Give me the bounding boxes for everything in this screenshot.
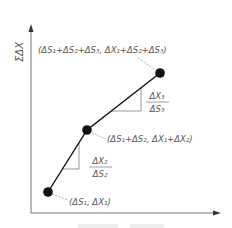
diagram-svg: ΣΔX (ΔS₁, ΔX₁) (ΔS₁+ΔS₂, ΔX₁+ΔX₂) (ΔS₁+Δ… [0, 0, 232, 228]
data-point-3 [155, 68, 165, 78]
y-axis-label: ΣΔX [14, 41, 25, 62]
point-label-1: (ΔS₁, ΔX₁) [69, 197, 111, 207]
slope-3-denominator: ΔS₃ [149, 104, 165, 114]
slope-2-denominator: ΔS₂ [92, 169, 108, 179]
slope-fraction-3: ΔX₃ ΔS₃ [146, 91, 169, 114]
slope-3-numerator: ΔX₃ [148, 91, 165, 101]
data-point-1 [43, 187, 53, 197]
point-label-3: (ΔS₁+ΔS₂+ΔS₃, ΔX₁+ΔS₂+ΔS₃) [38, 45, 167, 55]
cumulative-settlement-diagram: ΣΔX (ΔS₁, ΔX₁) (ΔS₁+ΔS₂, ΔX₁+ΔX₂) (ΔS₁+Δ… [0, 0, 232, 228]
slope-fraction-2: ΔX₂ ΔS₂ [89, 156, 112, 179]
slope-2-numerator: ΔX₂ [91, 156, 108, 166]
x-axis-arrow-icon [213, 211, 221, 216]
y-axis-arrow-icon [29, 24, 34, 32]
data-point-2 [82, 125, 92, 135]
point-label-2: (ΔS₁+ΔS₂, ΔX₁+ΔX₂) [107, 134, 193, 144]
caption-remnant [78, 224, 164, 228]
